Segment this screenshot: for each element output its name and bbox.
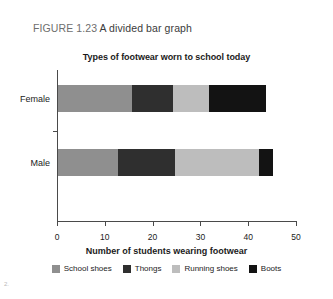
x-axis-tick (105, 221, 106, 226)
legend-item: School shoes (52, 264, 112, 273)
x-axis-tick (57, 221, 58, 226)
legend-swatch (52, 265, 60, 273)
legend-label: Running shoes (184, 264, 237, 273)
x-axis-tick (248, 221, 249, 226)
chart-title: Types of footwear worn to school today (0, 52, 333, 62)
x-axis-tick-label: 0 (55, 232, 60, 242)
figure-label: FIGURE 1.23 (33, 22, 97, 34)
legend-item: Running shoes (172, 264, 237, 273)
chart-legend: School shoesThongsRunning shoesBoots (0, 264, 333, 273)
y-axis-category-label: Female (20, 94, 50, 104)
x-axis-tick-label: 40 (243, 232, 252, 242)
bar-segment (175, 149, 259, 176)
bar-segment (209, 85, 266, 112)
x-axis-tick (296, 221, 297, 226)
legend-swatch (249, 265, 257, 273)
bar-row (58, 149, 273, 176)
bar-segment (58, 85, 132, 112)
bar-row (58, 85, 266, 112)
x-axis-tick-label: 20 (148, 232, 157, 242)
bar-segment (259, 149, 273, 176)
y-axis-tick (53, 131, 58, 132)
x-axis-tick (200, 221, 201, 226)
y-axis-category-label: Male (30, 158, 50, 168)
bar-segment (58, 149, 118, 176)
legend-swatch (123, 265, 131, 273)
legend-item: Boots (249, 264, 281, 273)
plot-area: 01020304050 FemaleMale (57, 70, 296, 222)
x-axis-line (57, 221, 296, 222)
bar-segment (132, 85, 173, 112)
x-axis-tick (153, 221, 154, 226)
legend-swatch (172, 265, 180, 273)
legend-item: Thongs (123, 264, 162, 273)
figure-caption: FIGURE 1.23 A divided bar graph (33, 22, 192, 34)
x-axis-tick-label: 50 (291, 232, 300, 242)
page-artifact: 2. (4, 281, 9, 287)
bar-segment (173, 85, 209, 112)
x-axis-tick-label: 30 (196, 232, 205, 242)
legend-label: Thongs (135, 264, 162, 273)
figure-caption-text: A divided bar graph (100, 22, 192, 34)
x-axis-tick-label: 10 (100, 232, 109, 242)
bar-segment (118, 149, 175, 176)
legend-label: Boots (261, 264, 281, 273)
legend-label: School shoes (64, 264, 112, 273)
x-axis-title: Number of students wearing footwear (0, 246, 333, 256)
